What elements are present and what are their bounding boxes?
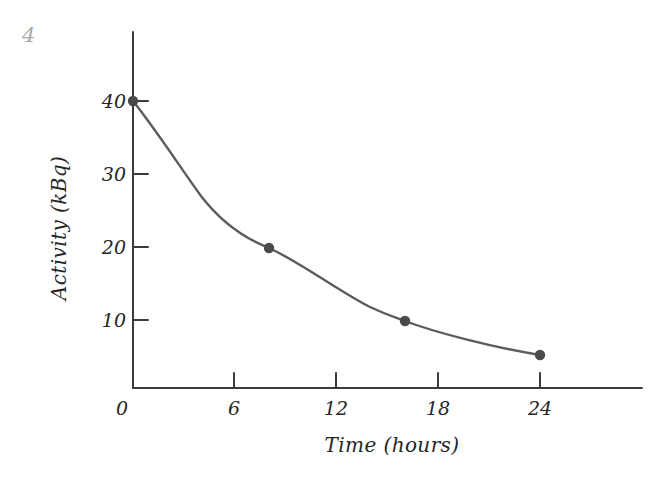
decay-curve xyxy=(133,101,540,355)
x-axis-title: Time (hours) xyxy=(325,433,460,457)
data-point-0h-40kbq xyxy=(128,96,138,106)
activity-decay-chart: 40 30 20 10 0 6 12 18 24 Time (hours) Ac… xyxy=(0,0,659,479)
y-axis-title: Activity (kBq) xyxy=(47,156,71,302)
x-tick-label-12: 12 xyxy=(324,397,348,419)
data-point-16h-10kbq xyxy=(400,316,410,326)
y-tick-label-40: 40 xyxy=(101,90,126,112)
data-point-24h-5kbq xyxy=(535,350,545,360)
x-tick-label-18: 18 xyxy=(426,397,450,419)
y-tick-label-10: 10 xyxy=(102,309,126,331)
x-tick-label-6: 6 xyxy=(228,397,240,419)
x-tick-label-24: 24 xyxy=(527,397,552,419)
y-tick-label-30: 30 xyxy=(102,163,126,185)
y-tick-label-20: 20 xyxy=(101,236,126,258)
figure-container: 40 30 20 10 0 6 12 18 24 Time (hours) Ac… xyxy=(0,0,659,479)
x-tick-label-0: 0 xyxy=(116,397,128,419)
figure-number-label: 4 xyxy=(21,23,35,47)
data-point-8h-20kbq xyxy=(264,243,274,253)
